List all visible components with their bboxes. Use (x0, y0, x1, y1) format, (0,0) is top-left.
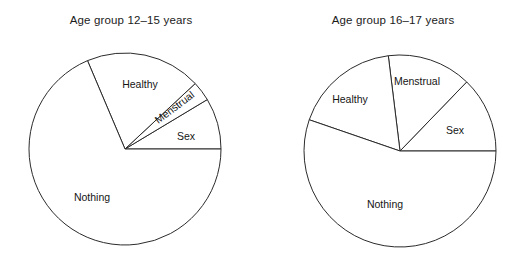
chart-panel-age-12-15: Age group 12–15 years SexMenstrualHealth… (0, 0, 262, 269)
pie-slice-label-sex: Sex (177, 130, 196, 142)
pie-slice-label-sex: Sex (446, 124, 465, 136)
pie-chart-age-12-15: SexMenstrualHealthyNothing (0, 0, 262, 269)
chart-panel-age-16-17: Age group 16–17 years SexMenstrualHealth… (262, 0, 524, 269)
pie-slice-label-nothing: Nothing (74, 191, 110, 203)
pie-slice-label-healthy: Healthy (332, 93, 368, 105)
figure-two-pie-charts: Age group 12–15 years SexMenstrualHealth… (0, 0, 524, 269)
pie-slice-label-nothing: Nothing (367, 198, 403, 210)
pie-slice-label-healthy: Healthy (122, 78, 158, 90)
pie-slice-label-menstrual: Menstrual (394, 75, 440, 87)
pie-chart-age-16-17: SexMenstrualHealthyNothing (262, 0, 524, 269)
